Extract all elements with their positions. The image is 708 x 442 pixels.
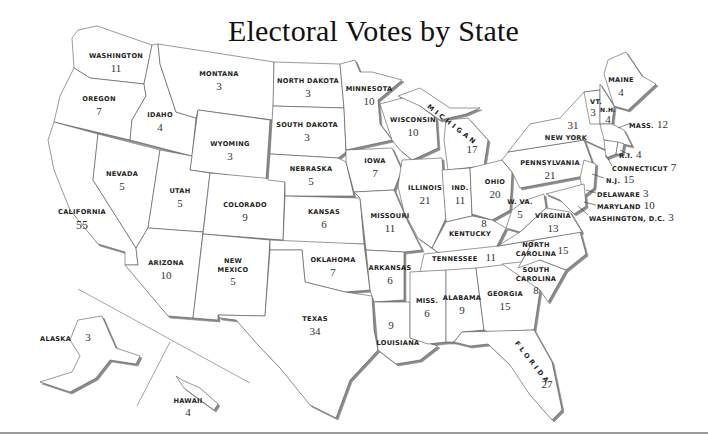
label-oklahoma: OKLAHOMA7 — [310, 257, 355, 278]
label-florida-votes: 27 — [542, 376, 553, 390]
label-new-hampshire: N.H.4 — [600, 107, 616, 125]
label-kentucky-votes: 8 — [481, 215, 487, 229]
map-title: Electoral Votes by State — [228, 14, 519, 48]
label-washington-dc: WASHINGTON, D.C.3 — [589, 208, 674, 224]
label-virginia: VIRGINIA13 — [535, 213, 571, 234]
label-south-carolina: SOUTHCAROLINA8 — [516, 267, 556, 296]
label-new-mexico: NEWMEXICO5 — [218, 258, 249, 287]
label-north-carolina-votes: 15 — [558, 242, 569, 256]
label-new-york: NEW YORK — [545, 135, 587, 142]
label-ohio: OHIO20 — [485, 179, 505, 200]
label-texas: TEXAS34 — [302, 316, 327, 337]
label-tennessee: TENNESSEE11 — [432, 248, 496, 264]
label-alaska: ALASKA3 — [40, 328, 91, 344]
label-arizona: ARIZONA10 — [148, 260, 184, 281]
label-arkansas: ARKANSAS6 — [369, 265, 412, 286]
label-pennsylvania: PENNSYLVANIA21 — [520, 160, 580, 181]
label-west-virginia: W. VA.5 — [507, 199, 533, 220]
label-hawaii: HAWAII4 — [173, 398, 202, 418]
label-alabama: ALABAMA9 — [443, 295, 481, 316]
label-nebraska: NEBRASKA5 — [290, 166, 333, 187]
label-minnesota: MINNESOTA10 — [346, 86, 393, 107]
label-idaho: IDAHO4 — [147, 112, 173, 133]
bottom-rule — [0, 432, 708, 434]
label-washington: WASHINGTON11 — [89, 53, 143, 74]
label-north-carolina: NORTHCAROLINA — [516, 242, 556, 257]
label-montana: MONTANA3 — [199, 71, 239, 92]
inset-divider-line — [137, 342, 170, 406]
label-wyoming: WYOMING3 — [210, 141, 249, 162]
label-indiana: IND.11 — [451, 185, 468, 206]
label-north-dakota: NORTH DAKOTA3 — [277, 78, 339, 99]
label-maine: MAINE4 — [608, 77, 634, 98]
label-nevada: NEVADA5 — [106, 171, 138, 192]
label-mississippi: MISS.6 — [416, 298, 438, 319]
label-kansas: KANSAS6 — [308, 209, 340, 230]
label-louisiana: LOUISIANA — [376, 340, 419, 347]
label-wisconsin: WISCONSIN10 — [390, 117, 436, 138]
label-missouri: MISSOURI11 — [370, 213, 409, 234]
label-massachusetts: MASS.12 — [629, 115, 668, 131]
label-illinois: ILLINOIS21 — [408, 185, 442, 206]
label-kentucky: KENTUCKY — [449, 231, 491, 238]
label-louisiana-votes: 9 — [388, 317, 394, 331]
label-colorado: COLORADO9 — [223, 202, 267, 223]
label-utah: UTAH5 — [169, 188, 190, 209]
label-california: CALIFORNIA55 — [58, 209, 106, 231]
label-south-dakota: SOUTH DAKOTA3 — [276, 122, 338, 143]
label-new-york-votes: 31 — [568, 117, 579, 131]
label-oregon: OREGON7 — [82, 96, 116, 117]
label-iowa: IOWA7 — [364, 158, 385, 179]
